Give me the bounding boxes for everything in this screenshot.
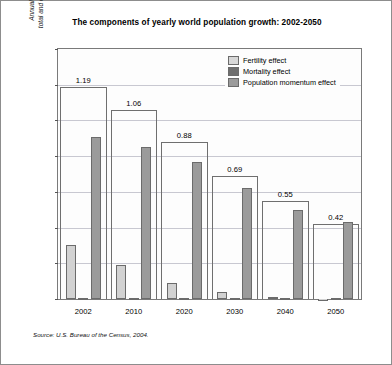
legend-swatch-mortality-icon xyxy=(228,67,239,76)
legend-item-mortality: Mortality effect xyxy=(228,66,336,76)
legend-label-fertility: Fertility effect xyxy=(243,56,286,65)
bar-momentum xyxy=(192,162,202,300)
y-axis-tick-mark xyxy=(55,49,58,50)
y-axis-tick-mark xyxy=(55,299,58,300)
source-note: Source: U.S. Bureau of the Census, 2004. xyxy=(33,331,149,338)
legend-swatch-fertility-icon xyxy=(228,56,239,65)
bar-group: 1.06 xyxy=(109,49,160,299)
bar-mortality xyxy=(280,298,290,300)
bar-fertility xyxy=(116,265,126,299)
bar-mortality xyxy=(129,298,139,300)
bar-fertility xyxy=(167,283,177,299)
bar-momentum xyxy=(242,188,252,299)
x-axis-tick-label: 2050 xyxy=(306,307,366,316)
bar-group: 1.19 xyxy=(58,49,109,299)
bar-mortality xyxy=(230,298,240,300)
legend-swatch-momentum-icon xyxy=(228,78,239,87)
legend-item-momentum: Population momentum effect xyxy=(228,77,336,87)
bar-fertility xyxy=(66,245,76,299)
chart-title: The components of yearly world populatio… xyxy=(1,18,392,27)
total-value-label: 0.55 xyxy=(255,190,315,199)
plot-area: 1.1920021.0620100.8820200.6920300.552040… xyxy=(57,48,362,300)
figure-container: The components of yearly world populatio… xyxy=(0,0,392,365)
y-axis-tick-mark xyxy=(55,120,58,121)
bar-mortality xyxy=(78,298,88,300)
legend-label-momentum: Population momentum effect xyxy=(243,78,336,87)
bar-momentum xyxy=(343,222,353,299)
bar-fertility xyxy=(318,299,328,301)
y-axis-title: Annual average percent growth total and … xyxy=(28,0,45,75)
y-axis-tick-mark xyxy=(55,192,58,193)
total-value-label: 0.88 xyxy=(154,131,214,140)
total-value-label: 0.69 xyxy=(205,165,265,174)
bar-momentum xyxy=(293,210,303,299)
legend-item-fertility: Fertility effect xyxy=(228,55,336,65)
bar-group: 0.88 xyxy=(159,49,210,299)
bar-momentum xyxy=(91,137,101,300)
y-axis-tick-mark xyxy=(55,228,58,229)
bar-fertility xyxy=(217,292,227,299)
bar-mortality xyxy=(331,298,341,300)
y-axis-tick-mark xyxy=(55,263,58,264)
y-axis-tick-mark xyxy=(55,156,58,157)
bar-mortality xyxy=(179,298,189,300)
bar-fertility xyxy=(268,297,278,299)
y-axis-tick-mark xyxy=(55,85,58,86)
total-value-label: 1.06 xyxy=(104,99,164,108)
total-value-label: 1.19 xyxy=(53,76,113,85)
total-value-label: 0.42 xyxy=(306,213,366,222)
chart-legend: Fertility effect Mortality effect Popula… xyxy=(225,52,340,91)
bar-momentum xyxy=(141,147,151,299)
legend-label-mortality: Mortality effect xyxy=(243,67,290,76)
